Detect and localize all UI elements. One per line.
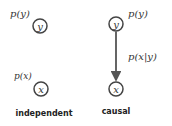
edge-label-pxy: p(x|y) (128, 51, 157, 63)
caption-causal: causal (102, 107, 131, 116)
diagram-canvas: p(y) y p(x) x independent y p(y) p(x|y) … (0, 0, 172, 126)
prob-label-py: p(y) (128, 8, 148, 19)
prob-label-py: p(y) (10, 8, 30, 19)
node-y: y (109, 17, 123, 31)
node-x: x (109, 82, 123, 96)
caption-independent: independent (15, 109, 72, 118)
node-label-y: y (36, 21, 43, 32)
panel-causal: y p(y) p(x|y) x causal (102, 8, 157, 116)
panel-independent: p(y) y p(x) x independent (10, 8, 73, 118)
node-label-y: y (112, 19, 119, 30)
prob-label-px: p(x) (14, 71, 32, 81)
node-x: x (34, 82, 48, 96)
node-y: y (33, 19, 47, 33)
node-label-x: x (38, 84, 44, 95)
node-label-x: x (113, 84, 119, 95)
